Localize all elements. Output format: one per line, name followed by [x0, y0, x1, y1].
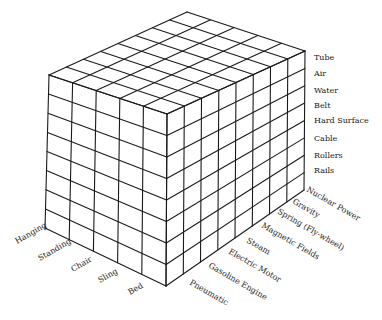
cube-front-face: [45, 75, 167, 286]
morphological-cube-diagram: TubeAirWaterBeltHard SurfaceCableRollers…: [0, 0, 382, 320]
vertical-axis-label: Rails: [314, 166, 334, 175]
cube-top-face: [49, 12, 305, 114]
cube-drawing: TubeAirWaterBeltHard SurfaceCableRollers…: [0, 0, 382, 320]
front-grid-line: [47, 171, 167, 222]
vertical-axis-label: Water: [314, 86, 338, 95]
front-grid-line: [48, 113, 167, 157]
vertical-axis-label: Rollers: [314, 151, 343, 160]
front-grid-line: [46, 190, 166, 243]
vertical-axis-labels: TubeAirWaterBeltHard SurfaceCableRollers…: [313, 53, 369, 175]
front-axis-label: Bed: [127, 281, 145, 297]
vertical-axis-label: Tube: [314, 53, 335, 62]
front-grid-line: [48, 132, 167, 178]
front-axis-label: Hanging: [14, 221, 49, 246]
front-axis-label: Chair: [70, 255, 94, 274]
front-axis-label: Sling: [97, 267, 120, 285]
vertical-axis-label: Belt: [314, 101, 331, 110]
right-axis-label: Pneumatic: [188, 278, 230, 308]
right-axis-label: Steam: [245, 236, 272, 257]
front-grid-line: [49, 94, 167, 135]
right-axis-labels: PneumaticGasoline EngineElectric MotorSt…: [188, 185, 362, 308]
vertical-axis-label: Cable: [314, 134, 338, 143]
front-axis-labels: HangingStandingChairSlingBed: [14, 221, 145, 297]
front-grid-line: [47, 152, 167, 201]
vertical-axis-label: Hard Surface: [314, 116, 369, 125]
front-axis-label: Standing: [37, 237, 73, 263]
vertical-axis-label: Air: [313, 69, 326, 78]
